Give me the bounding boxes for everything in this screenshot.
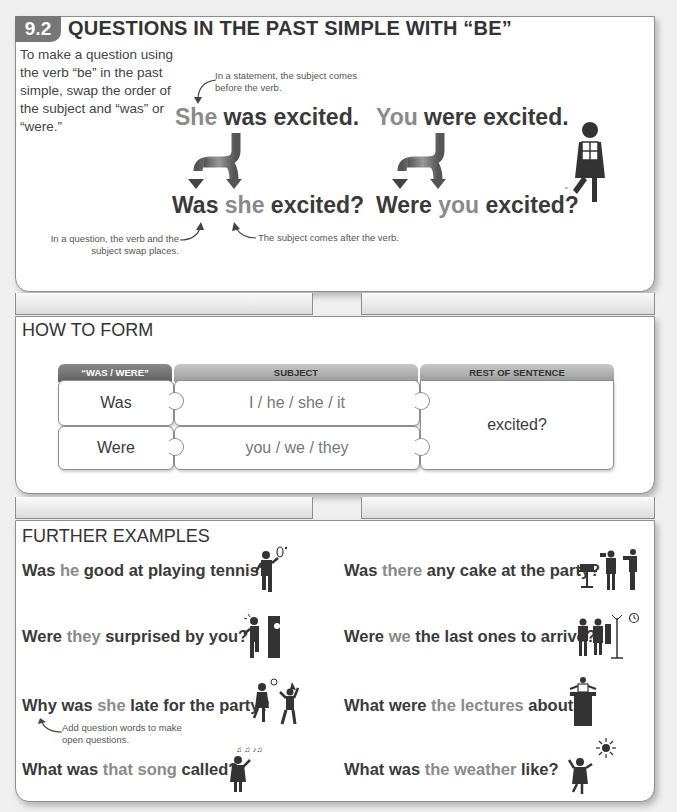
singing-person-icon: ♫ ♫ ♪♫ xyxy=(226,746,276,796)
example-verb: What was xyxy=(344,760,425,778)
example-subject: there xyxy=(382,561,422,579)
section-heading: HOW TO FORM xyxy=(22,320,153,341)
example-sentence: Why was she late for the party? xyxy=(22,696,270,715)
statement-example-1: She was excited. xyxy=(175,104,359,131)
verb-cell: Was xyxy=(58,380,174,426)
example-verb: What were xyxy=(344,696,431,714)
note-question-swap: In a question, the verb and the subject … xyxy=(44,233,179,257)
panel-connector xyxy=(361,293,655,315)
question-verb: Was xyxy=(172,192,225,218)
example-verb: Was xyxy=(344,561,382,579)
example-sentence: Were they surprised by you? xyxy=(22,627,248,646)
subject-cell: you / we / they xyxy=(174,426,420,470)
intro-text: To make a question using the verb “be” i… xyxy=(20,46,180,136)
statement-subject: She xyxy=(175,104,217,130)
puzzle-knob xyxy=(412,392,430,410)
verb-cell: Were xyxy=(58,426,174,470)
example-sentence: Was there any cake at the party? xyxy=(344,561,600,580)
curved-arrow-icon xyxy=(228,222,258,244)
section-title: QUESTIONS IN THE PAST SIMPLE WITH “BE” xyxy=(68,17,512,40)
surprised-people-icon xyxy=(242,612,287,660)
sunny-weather-icon xyxy=(568,738,618,796)
tennis-player-icon xyxy=(248,546,288,596)
example-subject: the weather xyxy=(425,760,517,778)
panel-connector xyxy=(15,497,313,519)
section-heading: FURTHER EXAMPLES xyxy=(22,526,210,547)
question-subject: you xyxy=(438,192,479,218)
swap-arrows-icon xyxy=(390,133,460,193)
example-subject: the lectures xyxy=(431,696,524,714)
svg-text:“: “ xyxy=(565,185,568,194)
example-subject: we xyxy=(389,627,411,645)
panel-connector xyxy=(361,497,655,519)
example-verb: Were xyxy=(344,627,389,645)
statement-subject: You xyxy=(376,104,418,130)
example-subject: she xyxy=(97,696,125,714)
example-subject: that song xyxy=(103,760,177,778)
subject-cell: I / he / she / it xyxy=(174,380,420,426)
puzzle-knob xyxy=(166,392,184,410)
example-rest: like? xyxy=(516,760,558,778)
example-verb: Was xyxy=(22,561,60,579)
statement-rest: was excited. xyxy=(217,104,359,130)
note-subject-after: The subject comes after the verb. xyxy=(258,232,458,244)
question-rest: excited? xyxy=(264,192,364,218)
svg-text:♫ ♫ ♪♫: ♫ ♫ ♪♫ xyxy=(236,746,262,754)
example-verb: Were xyxy=(22,627,67,645)
question-verb: Were xyxy=(376,192,438,218)
section-number-badge: 9.2 xyxy=(15,16,61,42)
example-verb: Why was xyxy=(22,696,97,714)
example-rest: the last ones to arrive? xyxy=(411,627,596,645)
note-statement: In a statement, the subject comes before… xyxy=(215,70,365,94)
question-subject: she xyxy=(225,192,265,218)
question-example-2: Were you excited? xyxy=(376,192,579,219)
late-party-icon xyxy=(252,678,307,728)
example-rest: good at playing tennis? xyxy=(79,561,269,579)
puzzle-knob xyxy=(166,438,184,456)
example-rest: surprised by you? xyxy=(101,627,249,645)
statement-example-2: You were excited. xyxy=(376,104,569,131)
question-example-1: Was she excited? xyxy=(172,192,364,219)
example-sentence: What were the lectures about? xyxy=(344,696,583,715)
statement-rest: were excited. xyxy=(418,104,569,130)
curved-arrow-icon xyxy=(190,76,220,106)
excited-woman-with-gift-icon: “ xyxy=(565,120,615,205)
puzzle-knob xyxy=(412,438,430,456)
example-sentence: What was that song called? xyxy=(22,760,238,779)
example-sentence: What was the weather like? xyxy=(344,760,559,779)
example-sentence: Was he good at playing tennis? xyxy=(22,561,269,580)
example-verb: What was xyxy=(22,760,103,778)
example-subject: he xyxy=(60,561,79,579)
question-rest: excited? xyxy=(479,192,579,218)
example-rest: late for the party? xyxy=(126,696,270,714)
cake-party-icon xyxy=(577,548,642,592)
curved-arrow-icon xyxy=(36,718,64,736)
note-open-questions: Add question words to make open question… xyxy=(62,722,192,746)
curved-arrow-icon xyxy=(178,222,208,244)
swap-arrows-icon xyxy=(186,133,256,193)
arriving-guests-icon xyxy=(575,612,643,662)
rest-of-sentence-cell: excited? xyxy=(420,380,614,470)
example-rest: any cake at the party? xyxy=(422,561,600,579)
panel-connector xyxy=(15,293,313,315)
example-subject: they xyxy=(67,627,101,645)
lecturer-podium-icon xyxy=(566,676,600,728)
example-sentence: Were we the last ones to arrive? xyxy=(344,627,596,646)
